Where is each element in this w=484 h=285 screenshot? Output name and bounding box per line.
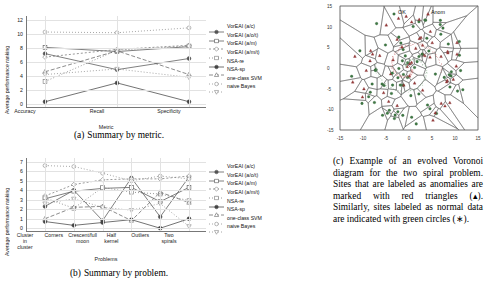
normal-site-marker [462, 88, 465, 91]
y-axis-tick-label: 4 [20, 187, 23, 193]
chart-b-x-axis-label: Problems [95, 256, 118, 262]
category-grid-line [103, 158, 104, 231]
normal-site-marker [386, 112, 389, 115]
normal-site-marker [439, 23, 442, 26]
y-axis-tick-label: 0 [20, 225, 23, 231]
category-grid-line [117, 16, 118, 107]
legend-item[interactable]: VorEAI (a/o/t) [208, 171, 288, 180]
category-grid-line [45, 16, 46, 107]
y-axis-tick-label: 12 [17, 17, 23, 23]
legend-item[interactable]: NSA-re [208, 56, 288, 65]
legend-label: VorEAI (a/c) [225, 163, 255, 169]
grid-line [27, 219, 206, 220]
legend-marker-icon [208, 82, 225, 90]
normal-site-marker [393, 117, 396, 120]
voronoi-y-ticks: 151050-5-10-15 [335, 2, 345, 134]
legend-item[interactable]: naive Bayes [208, 82, 288, 91]
voronoi-diagram [336, 2, 482, 142]
voronoi-y-tick-label: 0 [327, 66, 330, 71]
legend-item[interactable]: NSA-re [208, 196, 288, 205]
voronoi-x-tick-label: 5 [431, 136, 434, 141]
normal-site-marker [398, 36, 401, 39]
legend-label: NSA-sp [225, 206, 245, 212]
legend-item[interactable]: VorEAI (a/m/t) [208, 188, 288, 197]
legend-label: VorEAI (a/m) [225, 40, 257, 46]
normal-site-marker [443, 76, 446, 79]
legend-item[interactable]: one-class SVM [208, 74, 288, 83]
normal-site-marker [429, 107, 432, 110]
normal-site-marker [404, 55, 407, 58]
legend-marker-icon [208, 214, 225, 222]
grid-line [27, 171, 206, 172]
normal-site-marker [384, 44, 387, 47]
legend-marker-icon [208, 74, 225, 82]
legend-label: VorEAI (a/m/t) [225, 189, 260, 195]
legend-marker-icon [208, 171, 225, 179]
normal-site-marker [450, 71, 453, 74]
legend-item[interactable]: VorEAI (a/m/t) [208, 48, 288, 57]
voronoi-key-ok-icon [393, 13, 396, 16]
normal-site-marker [369, 91, 372, 94]
x-axis-tick-label: Recall [77, 108, 117, 114]
y-axis-tick-label: 4 [20, 73, 23, 79]
normal-site-marker [391, 72, 394, 75]
legend-label: naive Bayes [225, 223, 255, 229]
legend-item[interactable]: naive Bayes [208, 222, 288, 231]
legend-item[interactable]: VorEAI (a/m) [208, 179, 288, 188]
y-axis-tick-label: 6 [20, 168, 23, 174]
caption-a-label: (a) [74, 130, 87, 140]
normal-site-marker [426, 37, 429, 40]
legend-item[interactable]: NSA-sp [208, 65, 288, 74]
category-grid-line [189, 16, 190, 107]
chart-b-plot-area: 01234567ClusterinclusterCornersCrescent/… [26, 158, 206, 232]
normal-site-marker [447, 43, 450, 46]
normal-site-marker [458, 40, 461, 43]
voronoi-y-tick-label: 5 [327, 45, 330, 50]
legend-marker-icon [208, 222, 225, 230]
chart-b-series-layer [27, 158, 207, 232]
voronoi-figure: OK Anom -15-10-5051015 151050-5-10-15 [336, 2, 482, 150]
normal-site-marker [359, 50, 362, 53]
legend-item[interactable]: one-class SVM [208, 214, 288, 223]
normal-site-marker [402, 48, 405, 51]
grid-line [27, 162, 206, 163]
normal-site-marker [410, 116, 413, 119]
legend-item[interactable]: VorEAI (a/c) [208, 22, 288, 31]
legend-label: naive Bayes [225, 83, 255, 89]
normal-site-marker [459, 69, 462, 72]
legend-label: VorEAI (a/m/t) [225, 49, 260, 55]
legend-item[interactable]: VorEAI (a/o/t) [208, 31, 288, 40]
legend-label: one-class SVM [225, 75, 262, 81]
category-grid-line [74, 158, 75, 231]
voronoi-x-tick-label: 10 [452, 136, 457, 141]
caption-b: (b)Summary by problem. [24, 268, 214, 278]
caption-b-label: (b) [70, 268, 84, 278]
normal-site-marker [449, 86, 452, 89]
legend-label: VorEAI (a/o/t) [225, 32, 258, 38]
voronoi-frame [340, 6, 478, 130]
voronoi-x-ticks: -15-10-5051015 [336, 136, 482, 144]
caption-a: (a)Summary by metric. [24, 130, 214, 140]
normal-site-marker [371, 83, 374, 86]
normal-site-marker [350, 75, 353, 78]
normal-site-marker [418, 93, 421, 96]
grid-line [27, 190, 206, 191]
voronoi-key-ok: OK [398, 9, 406, 15]
voronoi-key-anom: Anom [431, 9, 445, 15]
normal-site-marker [418, 55, 421, 58]
normal-site-marker [397, 111, 400, 114]
normal-site-marker [448, 74, 451, 77]
legend-item[interactable]: VorEAI (a/c) [208, 162, 288, 171]
legend-label: VorEAI (a/m) [225, 180, 257, 186]
grid-line [27, 228, 206, 229]
voronoi-x-tick-label: -15 [337, 136, 344, 141]
y-axis-tick-label: 5 [20, 178, 23, 184]
legend-label: NSA-re [225, 198, 244, 204]
legend-label: VorEAI (a/o/t) [225, 172, 258, 178]
y-axis-tick-label: 8 [20, 45, 23, 51]
legend-item[interactable]: VorEAI (a/m) [208, 39, 288, 48]
y-axis-tick-label: 2 [20, 206, 23, 212]
legend-item[interactable]: NSA-sp [208, 205, 288, 214]
normal-site-marker [456, 90, 459, 93]
normal-site-marker [424, 19, 427, 22]
